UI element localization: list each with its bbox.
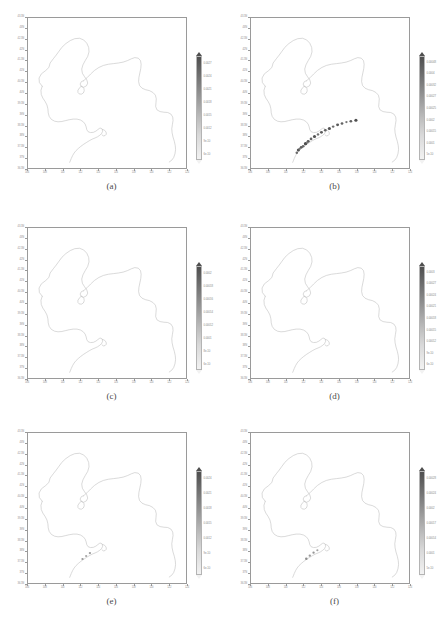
y-tick-mark <box>25 60 27 61</box>
map-plot-area-a <box>27 17 187 169</box>
y-tick-mark <box>25 432 27 433</box>
panel-c: 10610811011211411611812012212443.5N43N42… <box>0 210 223 415</box>
map-boundary-b <box>251 18 409 168</box>
y-tick-mark <box>25 486 27 487</box>
colorbar-tick-label: 0.0012 <box>204 536 212 539</box>
x-tick-label: 122 <box>167 382 171 385</box>
panel-caption-e: (e) <box>0 596 223 606</box>
y-tick-label: 42N <box>20 258 24 261</box>
y-tick-mark <box>25 249 27 250</box>
y-tick-mark <box>25 465 27 466</box>
x-tick-label: 114 <box>319 172 323 175</box>
y-tick-label: 41.5N <box>18 269 24 272</box>
y-tick-label: 37N <box>20 367 24 370</box>
colorbar-tick-label: 0.0012 <box>204 126 212 129</box>
colorbar-bottom-cap <box>196 575 202 579</box>
colorbar-tick-label: 9e-10 <box>427 351 434 354</box>
y-tick-mark <box>25 443 27 444</box>
y-tick-label: 42.5N <box>18 247 24 250</box>
x-tick-label: 110 <box>284 382 288 385</box>
y-tick-mark <box>25 368 27 369</box>
colorbar-tick-label: 0.0001 <box>427 141 435 144</box>
y-tick-label: 43.5N <box>241 226 247 229</box>
y-tick-mark <box>248 93 250 94</box>
y-tick-mark <box>25 260 27 261</box>
y-tick-label: 38.5N <box>241 334 247 337</box>
colorbar-bottom-cap <box>196 370 202 374</box>
y-tick-mark <box>248 60 250 61</box>
map-boundary-c <box>28 228 186 378</box>
colorbar-bottom-cap <box>419 575 425 579</box>
y-tick-mark <box>248 475 250 476</box>
x-tick-label: 120 <box>372 587 376 590</box>
y-tick-label: 40N <box>20 302 24 305</box>
x-tick-label: 106 <box>25 172 29 175</box>
y-tick-mark <box>25 475 27 476</box>
y-tick-mark <box>25 39 27 40</box>
x-tick-label: 108 <box>43 587 47 590</box>
y-tick-label: 36.5N <box>241 378 247 381</box>
panel-caption-c: (c) <box>0 391 223 401</box>
colorbar-bottom-cap <box>419 160 425 164</box>
y-tick-label: 43N <box>243 237 247 240</box>
panel-e: 10610811011211411611812012212443.5N43N42… <box>0 415 223 629</box>
x-tick-label: 112 <box>301 587 305 590</box>
x-tick-label: 114 <box>96 382 100 385</box>
y-tick-label: 38.5N <box>18 334 24 337</box>
colorbar-tick-label: 0.00027 <box>427 95 436 98</box>
y-tick-mark <box>248 39 250 40</box>
y-tick-mark <box>25 158 27 159</box>
y-tick-label: 39.5N <box>241 103 247 106</box>
colorbar-tick-label: 0.0018 <box>204 507 212 510</box>
y-tick-label: 43.5N <box>241 431 247 434</box>
x-tick-label: 110 <box>61 587 65 590</box>
y-tick-label: 43.5N <box>18 226 24 229</box>
y-tick-label: 40.5N <box>18 291 24 294</box>
y-tick-mark <box>248 584 250 585</box>
y-tick-mark <box>248 238 250 239</box>
y-tick-label: 38.5N <box>241 539 247 542</box>
y-tick-mark <box>25 314 27 315</box>
colorbar-tick-label: 6e-10 <box>204 362 211 365</box>
y-tick-mark <box>25 562 27 563</box>
y-tick-mark <box>25 573 27 574</box>
x-tick-label: 118 <box>355 587 359 590</box>
y-tick-label: 42N <box>243 48 247 51</box>
y-tick-label: 37.5N <box>18 356 24 359</box>
colorbar-tick-label: 0.00028 <box>427 477 436 480</box>
y-tick-label: 37.5N <box>241 561 247 564</box>
y-tick-mark <box>25 82 27 83</box>
y-tick-label: 41.5N <box>18 474 24 477</box>
y-tick-mark <box>25 104 27 105</box>
y-tick-label: 43N <box>20 27 24 30</box>
panel-f: 10610811011211411611812012212443.5N43N42… <box>223 415 446 629</box>
x-tick-label: 116 <box>114 587 118 590</box>
y-tick-mark <box>248 169 250 170</box>
y-tick-mark <box>248 573 250 574</box>
map-plot-area-e <box>27 432 187 584</box>
y-tick-mark <box>25 50 27 51</box>
colorbar-tick-label: 0.0018 <box>204 100 212 103</box>
y-tick-label: 42.5N <box>18 452 24 455</box>
y-tick-mark <box>248 158 250 159</box>
y-tick-mark <box>25 325 27 326</box>
y-tick-mark <box>248 71 250 72</box>
panel-a: 10610811011211411611812012212443.5N43N42… <box>0 0 223 210</box>
y-tick-label: 40.5N <box>18 496 24 499</box>
y-tick-mark <box>25 519 27 520</box>
y-tick-mark <box>248 379 250 380</box>
y-tick-label: 42.5N <box>241 37 247 40</box>
y-tick-label: 42N <box>243 258 247 261</box>
y-tick-label: 38.5N <box>18 124 24 127</box>
y-tick-mark <box>248 104 250 105</box>
colorbar-tick-label: 0.00025 <box>427 107 436 110</box>
y-tick-label: 38N <box>243 550 247 553</box>
y-tick-label: 39.5N <box>18 313 24 316</box>
y-tick-mark <box>25 541 27 542</box>
x-tick-label: 112 <box>301 382 305 385</box>
colorbar-tick-label: 0.0021 <box>204 87 212 90</box>
colorbar-tick-label: 0.0024 <box>204 477 212 480</box>
colorbar-tick-label: 0.00014 <box>204 310 213 313</box>
y-tick-mark <box>25 93 27 94</box>
y-tick-label: 38.5N <box>18 539 24 542</box>
